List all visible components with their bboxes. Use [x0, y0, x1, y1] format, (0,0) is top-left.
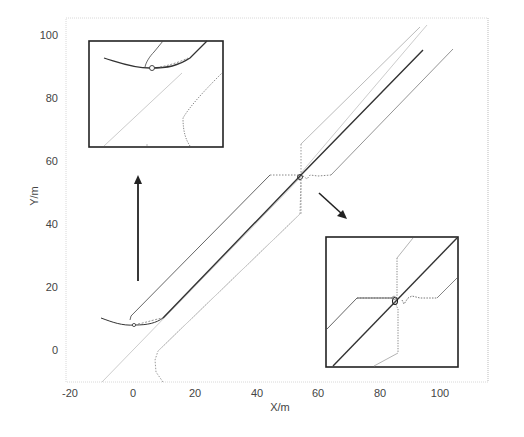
y-tick-label: 20 — [46, 281, 58, 293]
arrow-down-right-icon — [319, 193, 347, 219]
x-tick-label: 100 — [431, 387, 449, 399]
y-axis-label: Y/m — [28, 186, 40, 206]
x-tick-label: -20 — [62, 387, 78, 399]
y-axis: 100 80 60 40 20 0 Y/m — [28, 29, 58, 356]
arrow-up-icon — [134, 175, 142, 281]
outer-lower-gray-line — [158, 214, 300, 351]
y-tick-label: 80 — [46, 92, 58, 104]
x-axis: -20 0 20 40 60 80 100 X/m — [62, 387, 449, 413]
x-tick-label: 40 — [251, 387, 263, 399]
lower-boundary-line — [331, 49, 453, 175]
x-tick-label: 20 — [189, 387, 201, 399]
start-point-marker — [132, 323, 135, 326]
outer-lower-dotted-line — [155, 180, 301, 382]
y-tick-label: 100 — [40, 29, 58, 41]
inset-intersection-zoom — [326, 237, 458, 367]
x-tick-label: 80 — [374, 387, 386, 399]
trajectory-chart: 100 80 60 40 20 0 Y/m -20 0 20 40 60 80 … — [0, 0, 524, 437]
x-tick-label: 0 — [130, 387, 136, 399]
x-tick-label: 60 — [312, 387, 324, 399]
y-tick-label: 0 — [52, 344, 58, 356]
start-curve — [101, 318, 163, 325]
x-axis-label: X/m — [270, 401, 290, 413]
upper-boundary-line — [130, 175, 270, 320]
y-tick-label: 40 — [46, 218, 58, 230]
upper-right-gray-line — [301, 27, 420, 144]
y-tick-label: 60 — [46, 155, 58, 167]
inset-start-zoom — [89, 41, 223, 147]
